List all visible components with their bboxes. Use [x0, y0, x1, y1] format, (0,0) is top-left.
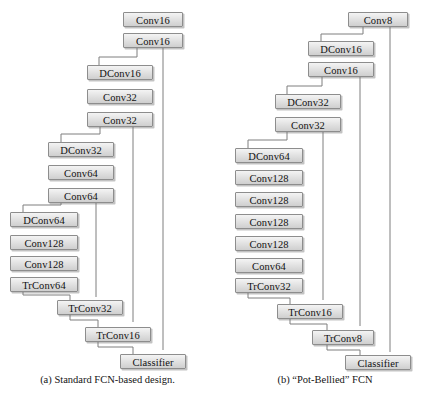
caption-panel-b: (b) “Pot-Bellied” FCN — [215, 374, 435, 385]
layer-node: TrConv16 — [277, 304, 343, 319]
layer-node: Conv128 — [235, 214, 303, 229]
layer-node: Conv128 — [235, 192, 303, 207]
layer-node: TrConv32 — [57, 300, 123, 315]
layer-node: Conv64 — [48, 165, 114, 180]
panel-pot-bellied-fcn: Conv8DConv16Conv16DConv32Conv32DConv64Co… — [215, 0, 435, 408]
layer-node: Conv32 — [87, 112, 153, 127]
layer-node: Conv16 — [123, 33, 183, 48]
panel-standard-fcn: Conv16Conv16DConv16Conv32Conv32DConv32Co… — [0, 0, 215, 408]
layer-node: Conv64 — [48, 188, 114, 203]
layer-node: Conv128 — [10, 256, 78, 271]
layer-node: Classifier — [120, 354, 186, 369]
figure-root: Conv16Conv16DConv16Conv32Conv32DConv32Co… — [0, 0, 435, 408]
layer-node: Conv128 — [235, 236, 303, 251]
caption-panel-a: (a) Standard FCN-based design. — [0, 374, 215, 385]
layer-node: DConv64 — [10, 212, 78, 227]
layer-node: DConv32 — [275, 94, 341, 109]
layer-node: Conv16 — [308, 62, 374, 77]
layer-node: DConv16 — [87, 65, 153, 80]
layer-node: Conv64 — [235, 258, 303, 273]
layer-node: Classifier — [345, 355, 411, 370]
layer-node: Conv32 — [275, 117, 341, 132]
layer-node: Conv32 — [87, 89, 153, 104]
layer-node: TrConv8 — [312, 330, 374, 345]
layer-node: DConv32 — [48, 142, 114, 157]
layer-node: Conv16 — [123, 12, 183, 27]
layer-node: Conv8 — [348, 12, 408, 27]
layer-node: Conv128 — [235, 170, 303, 185]
diagram-a: Conv16Conv16DConv16Conv32Conv32DConv32Co… — [0, 0, 215, 370]
layer-node: TrConv16 — [85, 327, 151, 342]
layer-node: Conv128 — [10, 235, 78, 250]
layer-node: TrConv32 — [235, 278, 303, 293]
diagram-b: Conv8DConv16Conv16DConv32Conv32DConv64Co… — [215, 0, 435, 370]
layer-node: DConv16 — [308, 41, 374, 56]
layer-node: TrConv64 — [10, 277, 78, 292]
layer-node: DConv64 — [235, 148, 303, 163]
